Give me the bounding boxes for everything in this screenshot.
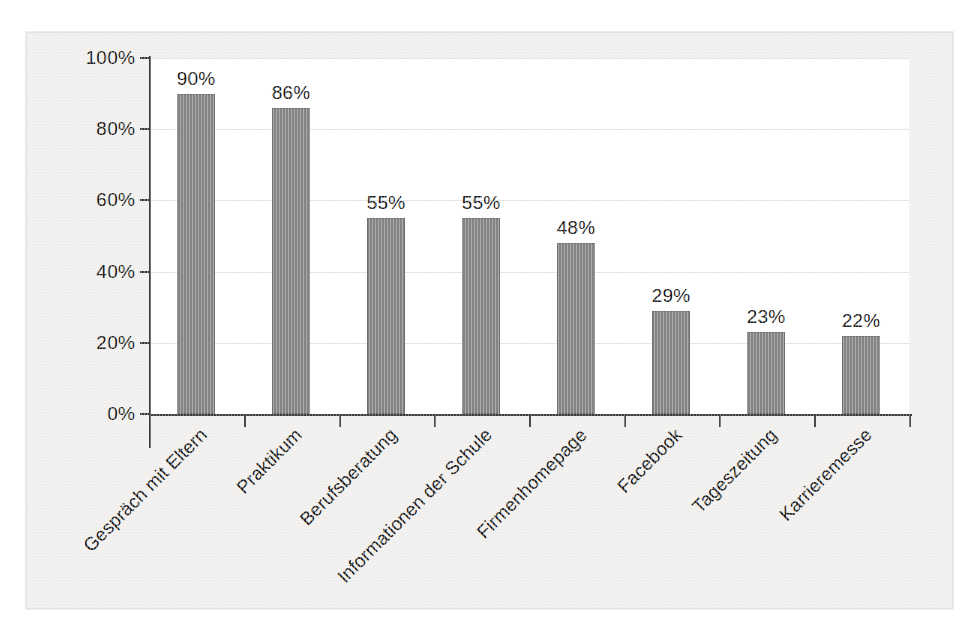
bar-value-label: 90%: [177, 68, 216, 90]
bar[interactable]: 55%: [462, 218, 500, 414]
y-axis-tick-label: 100%: [86, 47, 135, 69]
gridline: [149, 58, 909, 59]
y-axis-tick-label: 80%: [96, 118, 135, 140]
y-axis-tick-label: 40%: [96, 261, 135, 283]
y-axis-tick-mark: [140, 413, 149, 415]
x-axis-tick-mark: [909, 416, 911, 427]
x-axis-category-label: Gespräch mit Eltern: [79, 424, 211, 556]
x-axis-label-group: Gespräch mit Eltern Praktikum Berufsbera…: [149, 416, 909, 606]
gridline: [149, 343, 909, 344]
bar-value-label: 55%: [367, 192, 406, 214]
x-axis-category-label: Karrieremesse: [775, 424, 877, 526]
y-axis-tick-label: 60%: [96, 189, 135, 211]
screenshot-root: 0% 20% 40% 60% 80% 100% 90% 86%: [0, 0, 976, 636]
bar[interactable]: 48%: [557, 243, 595, 414]
x-axis-category-label: Berufsberatung: [296, 424, 402, 530]
bar[interactable]: 22%: [842, 336, 880, 414]
x-axis-category-label: Informationen der Schule: [333, 424, 496, 587]
bar-value-label: 22%: [842, 310, 881, 332]
bar-value-label: 86%: [272, 82, 311, 104]
y-axis-line: [149, 56, 151, 448]
x-axis-category-label: Facebook: [613, 424, 687, 498]
x-axis-category-label: Praktikum: [232, 424, 306, 498]
y-axis-tick-mark: [140, 57, 149, 59]
x-axis-category-label: Tageszeitung: [688, 424, 782, 518]
bar-value-label: 23%: [747, 306, 786, 328]
bar[interactable]: 86%: [272, 108, 310, 414]
bar[interactable]: 29%: [652, 311, 690, 414]
y-axis-tick-mark: [140, 128, 149, 130]
y-axis-tick-mark: [140, 271, 149, 273]
bar[interactable]: 23%: [747, 332, 785, 414]
gridline: [149, 129, 909, 130]
plot-area: 90% 86% 55% 55% 48% 29% 23% 22%: [149, 58, 909, 414]
y-axis-tick-mark: [140, 342, 149, 344]
y-axis-tick-label: 20%: [96, 332, 135, 354]
gridline: [149, 200, 909, 201]
y-axis-tick-mark: [140, 199, 149, 201]
bar-value-label: 48%: [557, 217, 596, 239]
bar[interactable]: 90%: [177, 94, 215, 414]
gridline: [149, 272, 909, 273]
bar-value-label: 29%: [652, 285, 691, 307]
figure-frame: 0% 20% 40% 60% 80% 100% 90% 86%: [26, 32, 953, 609]
bar[interactable]: 55%: [367, 218, 405, 414]
y-axis-tick-label: 0%: [107, 403, 135, 425]
bar-value-label: 55%: [462, 192, 501, 214]
